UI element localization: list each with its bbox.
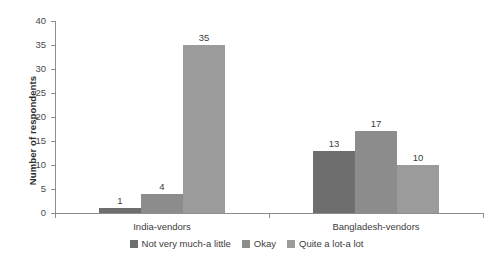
legend-item[interactable]: Quite a lot-a lot	[287, 238, 363, 249]
y-axis-tick: 20	[0, 112, 55, 122]
bar-value-label: 13	[329, 138, 340, 149]
legend-swatch-icon	[242, 240, 250, 248]
legend-swatch-icon	[287, 240, 295, 248]
y-axis-tick-label: 30	[35, 64, 46, 74]
y-axis-tick-label: 20	[35, 112, 46, 122]
y-axis-tick-label: 0	[41, 208, 46, 218]
y-axis-tick-label: 5	[41, 184, 46, 194]
y-axis-tick: 5	[0, 184, 55, 194]
y-axis-tick-label: 35	[35, 40, 46, 50]
bar-value-label: 1	[117, 195, 122, 206]
y-axis-tick: 0	[0, 208, 55, 218]
x-axis-tick-mark	[55, 213, 56, 218]
y-axis-tick: 15	[0, 136, 55, 146]
y-axis-tick-label: 25	[35, 88, 46, 98]
y-axis-tick: 10	[0, 160, 55, 170]
y-axis-tick-label: 10	[35, 160, 46, 170]
bar: 4	[141, 194, 183, 213]
bar-chart: Number of respondents 0510152025303540 1…	[0, 0, 493, 267]
y-axis-tick-label: 15	[35, 136, 46, 146]
chart-legend: Not very much-a littleOkayQuite a lot-a …	[0, 238, 493, 249]
legend-item[interactable]: Okay	[242, 238, 276, 249]
x-axis-group-label: Bangladesh-vendors	[269, 221, 483, 232]
bar: 1	[99, 208, 141, 213]
y-axis-tick: 25	[0, 88, 55, 98]
legend-swatch-icon	[130, 240, 138, 248]
bar: 10	[397, 165, 439, 213]
legend-label: Quite a lot-a lot	[299, 238, 363, 249]
x-axis-group-label: India-vendors	[55, 221, 269, 232]
x-axis-tick-mark	[269, 213, 270, 218]
x-axis-tick-mark	[483, 213, 484, 218]
bar: 17	[355, 131, 397, 213]
legend-item[interactable]: Not very much-a little	[130, 238, 231, 249]
bar-value-label: 17	[371, 118, 382, 129]
y-axis-tick: 35	[0, 40, 55, 50]
bar: 35	[183, 45, 225, 213]
bar-value-label: 10	[413, 152, 424, 163]
bar: 13	[313, 151, 355, 213]
legend-label: Not very much-a little	[142, 238, 231, 249]
y-axis-tick: 30	[0, 64, 55, 74]
legend-label: Okay	[254, 238, 276, 249]
plot-area: 1435131710	[55, 21, 483, 213]
bar-value-label: 35	[199, 32, 210, 43]
bar-value-label: 4	[159, 181, 164, 192]
y-axis-tick: 40	[0, 16, 55, 26]
y-axis-tick-label: 40	[35, 16, 46, 26]
